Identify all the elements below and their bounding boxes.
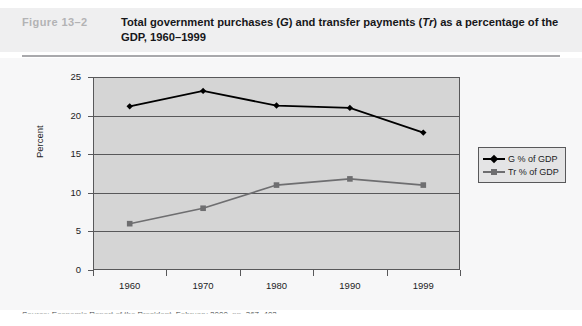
legend-item-g: G % of GDP: [483, 152, 559, 165]
title-divider-rule: [22, 55, 560, 57]
chart-canvas: Percent 0510152025 19601970198019901999 …: [0, 58, 582, 310]
figure-title-part-2: ) and transfer payments (: [289, 16, 423, 28]
data-point-marker: [347, 105, 353, 111]
legend-label-g: G % of GDP: [508, 154, 558, 164]
data-point-marker: [127, 103, 133, 109]
figure-title-symbol-g: G: [280, 16, 289, 28]
source-band: Source: Economic Report of the President…: [0, 310, 582, 326]
square-marker-icon: [483, 167, 505, 177]
series-overlay: [0, 58, 582, 310]
data-point-marker: [347, 176, 353, 182]
data-point-marker: [200, 88, 206, 94]
chart-legend: G % of GDP Tr % of GDP: [478, 147, 566, 183]
legend-label-tr: Tr % of GDP: [508, 167, 559, 177]
figure-title-symbol-tr: Tr: [422, 16, 433, 28]
data-point-marker: [273, 102, 279, 108]
series-line-g: [130, 91, 424, 133]
data-point-marker: [421, 182, 427, 188]
data-point-marker: [127, 221, 133, 227]
data-point-marker: [274, 182, 280, 188]
data-point-marker: [200, 205, 206, 211]
figure-title: Total government purchases (G) and trans…: [121, 15, 561, 44]
figure-title-part-1: Total government purchases (: [121, 16, 280, 28]
data-point-marker: [420, 129, 426, 135]
legend-item-tr: Tr % of GDP: [483, 165, 559, 178]
diamond-marker-icon: [483, 154, 505, 164]
figure-number-label: Figure 13–2: [22, 16, 88, 28]
source-note: Source: Economic Report of the President…: [22, 310, 279, 319]
